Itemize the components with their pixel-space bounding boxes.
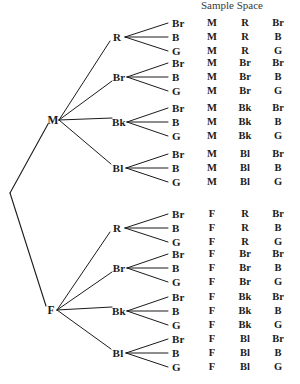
edge-level1-to-level2-4 (57, 232, 110, 310)
sample-space-cell-size-4: Br (272, 58, 284, 69)
sample-space-cell-color-9: Bk (239, 131, 252, 142)
sample-space-cell-gender-3: M (207, 46, 217, 57)
edge-level1-to-level2-5 (57, 272, 112, 310)
sample-space-cell-color-17: Br (239, 263, 251, 274)
edge-level2-2-to-leaf-0 (127, 108, 168, 122)
leaf-label-13: Br (172, 209, 185, 220)
sample-space-cell-color-23: Bl (240, 348, 250, 359)
sample-space-cell-gender-9: M (207, 131, 217, 142)
sample-space-cell-color-18: Br (239, 277, 251, 288)
sample-space-cell-size-14: B (274, 223, 281, 234)
node-level2-bk-2: Bk (112, 117, 126, 128)
leaf-label-3: G (172, 46, 181, 57)
sample-space-cell-gender-10: M (207, 149, 217, 160)
leaf-label-2: B (172, 32, 180, 43)
sample-space-cell-gender-4: M (207, 58, 217, 69)
sample-space-cell-color-19: Bk (239, 292, 252, 303)
leaf-label-24: G (172, 362, 181, 373)
edge-level2-6-to-leaf-0 (127, 297, 168, 311)
sample-space-cell-size-17: B (274, 263, 281, 274)
sample-space-cell-gender-7: M (207, 103, 217, 114)
edge-level2-1-to-leaf-2 (127, 77, 168, 91)
sample-space-cell-gender-8: M (207, 117, 217, 128)
node-level2-r-0: R (113, 32, 121, 43)
sample-space-cell-size-13: Br (272, 209, 284, 220)
node-level2-r-4: R (113, 223, 121, 234)
leaf-label-11: B (172, 163, 180, 174)
edge-root-to-m-0 (10, 124, 48, 193)
sample-space-cell-color-14: R (241, 223, 249, 234)
leaf-label-9: G (172, 131, 181, 142)
leaf-label-22: Br (172, 334, 185, 345)
leaf-label-21: G (172, 320, 181, 331)
edge-level2-3-to-leaf-2 (126, 168, 168, 182)
sample-space-cell-color-10: Bl (240, 149, 250, 160)
sample-space-cell-gender-16: F (209, 249, 215, 260)
sample-space-cell-size-21: G (274, 320, 282, 331)
edge-level2-6-to-leaf-2 (127, 311, 168, 325)
sample-space-cell-size-1: Br (272, 18, 284, 29)
leaf-label-14: B (172, 223, 180, 234)
sample-space-cell-size-20: B (274, 306, 281, 317)
sample-space-cell-size-3: G (274, 46, 282, 57)
sample-space-cell-color-3: R (241, 46, 249, 57)
edge-level2-4-to-leaf-0 (125, 214, 168, 228)
sample-space-cell-size-18: G (274, 277, 282, 288)
node-level2-br-1: Br (113, 72, 126, 83)
sample-space-cell-color-21: Bk (239, 320, 252, 331)
sample-space-cell-gender-23: F (209, 348, 215, 359)
sample-space-cell-gender-13: F (209, 209, 215, 220)
edge-level2-5-to-leaf-2 (127, 268, 168, 282)
node-level1-m: M (47, 115, 58, 126)
leaf-label-23: B (172, 348, 180, 359)
sample-space-cell-size-24: G (274, 362, 282, 373)
leaf-label-15: G (172, 237, 181, 248)
leaf-label-8: B (172, 117, 180, 128)
edge-level1-to-level2-0 (59, 41, 110, 120)
edge-level2-4-to-leaf-2 (125, 228, 168, 242)
sample-space-cell-size-2: B (274, 32, 281, 43)
sample-space-cell-color-13: R (241, 209, 249, 220)
sample-space-cell-size-15: G (274, 237, 282, 248)
edge-level2-5-to-leaf-0 (127, 254, 168, 268)
sample-space-cell-gender-17: F (209, 263, 215, 274)
sample-space-cell-size-6: G (274, 86, 282, 97)
sample-space-cell-gender-24: F (209, 362, 215, 373)
sample-space-cell-size-10: Br (272, 149, 284, 160)
sample-space-cell-size-8: B (274, 117, 281, 128)
sample-space-cell-size-11: B (274, 163, 281, 174)
leaf-label-1: Br (172, 18, 185, 29)
sample-space-cell-size-5: B (274, 72, 281, 83)
sample-space-cell-color-16: Br (239, 249, 251, 260)
tree-diagram: MFRBrBkBlRBrBkBl BrMRBrBMRBGMRGBrMBrBrBM… (0, 0, 300, 384)
sample-space-cell-gender-14: F (209, 223, 215, 234)
edge-level1-to-level2-3 (59, 120, 111, 164)
edge-level1-to-level2-6 (57, 307, 112, 310)
edge-level2-3-to-leaf-0 (126, 154, 168, 168)
sample-space-cell-color-15: R (241, 237, 249, 248)
leaf-label-4: Br (172, 58, 185, 69)
sample-space-cell-size-7: Br (272, 103, 284, 114)
sample-space-cell-gender-18: F (209, 277, 215, 288)
sample-space-cell-gender-1: M (207, 18, 217, 29)
leaf-label-19: Br (172, 292, 185, 303)
leaf-label-12: G (172, 177, 181, 188)
leaf-label-16: Br (172, 249, 185, 260)
sample-space-cell-color-11: Bl (240, 163, 250, 174)
leaf-label-10: Br (172, 149, 185, 160)
edge-level1-to-level2-2 (59, 118, 112, 120)
sample-space-cell-gender-21: F (209, 320, 215, 331)
leaf-label-18: G (172, 277, 181, 288)
edge-level2-7-to-leaf-0 (126, 339, 168, 353)
leaf-label-6: G (172, 86, 181, 97)
sample-space-cell-size-19: Br (272, 292, 284, 303)
sample-space-cell-color-1: R (241, 18, 249, 29)
sample-space-cell-color-24: Bl (240, 362, 250, 373)
sample-space-title: Sample Space (201, 0, 263, 11)
sample-space-cell-color-6: Br (239, 86, 251, 97)
edge-level2-0-to-leaf-2 (125, 37, 168, 51)
sample-space-cell-size-16: Br (272, 249, 284, 260)
sample-space-cell-color-5: Br (239, 72, 251, 83)
sample-space-cell-color-8: Bk (239, 117, 252, 128)
sample-space-cell-color-2: R (241, 32, 249, 43)
